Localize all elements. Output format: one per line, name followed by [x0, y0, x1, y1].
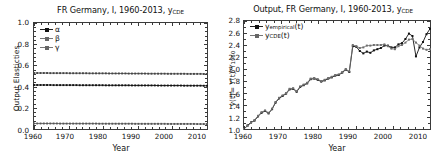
axis-tick — [311, 127, 312, 129]
axis-tick — [427, 81, 430, 82]
right-ytick-1: 1.2 — [216, 114, 240, 123]
axis-tick — [34, 40, 36, 41]
legend-swatch-ycde — [250, 35, 263, 36]
axis-tick — [427, 93, 430, 94]
axis-tick — [34, 82, 36, 83]
axis-tick — [408, 127, 409, 129]
axis-tick — [172, 23, 173, 26]
axis-tick — [179, 23, 180, 25]
axis-tick — [34, 27, 36, 28]
axis-tick — [363, 127, 364, 129]
axis-tick — [34, 61, 36, 62]
legend-item-yempirical[interactable]: yempirical(t) — [250, 22, 303, 31]
axis-tick — [204, 44, 207, 45]
axis-tick — [34, 104, 36, 105]
right-xtick-4: 2000 — [370, 132, 396, 141]
axis-tick — [427, 105, 430, 106]
axis-tick — [259, 127, 260, 129]
axis-tick — [193, 23, 194, 25]
axis-tick — [34, 74, 36, 75]
axis-tick — [205, 78, 207, 79]
left-xtick-5: 2010 — [184, 132, 210, 141]
axis-tick — [296, 127, 297, 129]
axis-tick — [393, 21, 394, 24]
axis-tick — [385, 21, 386, 23]
panel-output-growth: Output, FR Germany, I, 1960-2013, yCDE y… — [217, 0, 435, 164]
axis-tick — [370, 21, 371, 23]
axis-tick — [423, 127, 424, 129]
axis-tick — [34, 65, 37, 66]
axis-tick — [76, 23, 77, 25]
axis-tick — [427, 69, 430, 70]
axis-tick — [205, 27, 207, 28]
axis-tick — [159, 23, 160, 25]
axis-tick — [244, 123, 246, 124]
axis-tick — [82, 127, 83, 129]
right-ytick-4: 1.8 — [216, 77, 240, 86]
axis-tick — [428, 87, 430, 88]
right-ytick-7: 2.4 — [216, 41, 240, 50]
axis-tick — [205, 99, 207, 100]
axis-tick — [55, 127, 56, 129]
axis-tick — [204, 129, 207, 130]
axis-tick — [205, 125, 207, 126]
axis-tick — [205, 104, 207, 105]
axis-tick — [103, 126, 104, 129]
axis-tick — [400, 21, 401, 23]
axis-tick — [244, 21, 247, 22]
axis-tick — [244, 33, 247, 34]
axis-tick — [244, 57, 247, 58]
axis-tick — [34, 48, 36, 49]
legend-item-alpha[interactable]: α — [40, 25, 60, 34]
axis-tick — [244, 129, 247, 130]
axis-tick — [179, 127, 180, 129]
axis-tick — [34, 53, 36, 54]
right-xtick-2: 1980 — [300, 132, 326, 141]
axis-tick — [415, 127, 416, 129]
axis-tick — [423, 21, 424, 23]
axis-tick — [205, 70, 207, 71]
axis-tick — [34, 125, 36, 126]
axis-tick — [205, 31, 207, 32]
axis-tick — [205, 116, 207, 117]
axis-tick — [205, 53, 207, 54]
left-ytick-3: 0.6 — [5, 61, 29, 70]
axis-tick — [117, 127, 118, 129]
axis-tick — [186, 23, 187, 25]
left-ytick-4: 0.8 — [5, 40, 29, 49]
legend-label-beta: β — [55, 34, 60, 43]
axis-tick — [89, 23, 90, 25]
axis-tick — [244, 63, 246, 64]
axis-tick — [204, 87, 207, 88]
axis-tick — [341, 21, 342, 23]
axis-tick — [428, 51, 430, 52]
axis-tick — [428, 111, 430, 112]
axis-tick — [244, 105, 247, 106]
left-ytick-2: 0.4 — [5, 83, 29, 92]
axis-tick — [69, 126, 70, 129]
axis-tick — [244, 87, 246, 88]
axis-tick — [408, 21, 409, 23]
axis-tick — [34, 31, 36, 32]
axis-tick — [34, 70, 36, 71]
axis-tick — [244, 81, 247, 82]
axis-tick — [244, 51, 246, 52]
legend-item-beta[interactable]: β — [40, 34, 60, 43]
legend-swatch-beta — [40, 38, 53, 39]
legend-item-ycde[interactable]: yCDE(t) — [250, 31, 303, 40]
axis-tick — [385, 127, 386, 129]
axis-tick — [152, 23, 153, 25]
axis-tick — [82, 23, 83, 25]
axis-tick — [318, 21, 319, 24]
left-xtick-2: 1980 — [85, 132, 111, 141]
left-panel-title: FR Germany, I, 1960-2013, yCDE — [28, 5, 213, 15]
legend-label-yempirical: yempirical(t) — [265, 22, 303, 31]
axis-tick — [205, 48, 207, 49]
legend-item-gamma[interactable]: γ — [40, 43, 60, 52]
axis-tick — [204, 65, 207, 66]
axis-tick — [348, 127, 349, 129]
left-xtick-3: 1990 — [118, 132, 144, 141]
right-ytick-5: 2.0 — [216, 65, 240, 74]
figure-container: FR Germany, I, 1960-2013, yCDE Output El… — [0, 0, 435, 164]
right-xtick-1: 1970 — [265, 132, 291, 141]
